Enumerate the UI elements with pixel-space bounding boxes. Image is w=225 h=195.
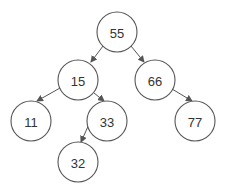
node-label: 66 [148, 74, 162, 89]
edge-66-77 [172, 89, 192, 101]
node-label: 15 [71, 74, 85, 89]
tree-node-11: 11 [11, 101, 51, 141]
tree-node-33: 33 [87, 101, 127, 141]
tree-node-77: 77 [175, 101, 215, 141]
tree-node-15: 15 [58, 60, 98, 100]
node-label: 77 [188, 115, 202, 130]
node-label: 32 [71, 156, 85, 171]
edge-15-33 [94, 93, 104, 101]
node-label: 33 [100, 115, 114, 130]
node-label: 11 [24, 115, 38, 130]
node-label: 55 [110, 26, 124, 41]
tree-node-66: 66 [135, 60, 175, 100]
tree-node-55: 55 [97, 12, 137, 52]
edge-55-66 [131, 46, 144, 62]
edge-15-11 [37, 88, 60, 101]
edge-55-15 [91, 46, 103, 62]
binary-tree-diagram: 55 15 66 11 33 77 32 [0, 0, 225, 195]
tree-node-32: 32 [58, 142, 98, 182]
